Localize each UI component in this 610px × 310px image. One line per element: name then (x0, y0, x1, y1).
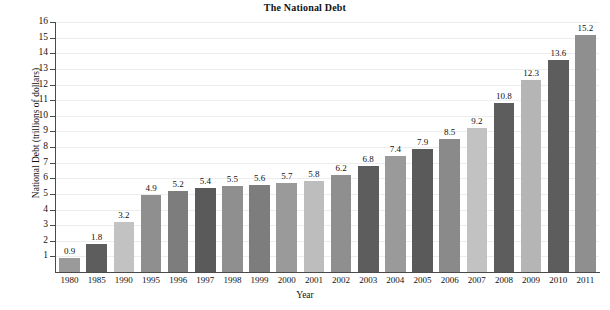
y-tick-label: 12 (0, 80, 48, 90)
x-tick-label: 2003 (355, 276, 382, 285)
bar[interactable] (548, 60, 569, 273)
bar-slot[interactable]: 5.8 (300, 22, 327, 272)
x-tick-label: 2000 (273, 276, 300, 285)
x-tick-label: 2010 (545, 276, 572, 285)
bar-slot[interactable]: 3.2 (110, 22, 137, 272)
y-tick-label: 2 (0, 236, 48, 246)
bar[interactable] (575, 35, 596, 273)
bar-slot[interactable]: 15.2 (572, 22, 599, 272)
bar-value-label: 15.2 (558, 24, 610, 33)
y-tick-mark (50, 100, 55, 101)
x-tick-label: 2001 (300, 276, 327, 285)
bar[interactable] (467, 128, 488, 272)
y-tick-label: 15 (0, 33, 48, 43)
x-tick-label: 2008 (490, 276, 517, 285)
bar[interactable] (168, 191, 189, 272)
bar-slot[interactable]: 7.9 (409, 22, 436, 272)
x-tick-label: 2005 (409, 276, 436, 285)
y-tick-mark (50, 85, 55, 86)
y-tick-label: 11 (0, 95, 48, 105)
y-tick-label: 6 (0, 173, 48, 183)
x-tick-label: 1995 (137, 276, 164, 285)
bar-slot[interactable]: 10.8 (490, 22, 517, 272)
bar[interactable] (141, 195, 162, 272)
y-tick-mark (50, 194, 55, 195)
y-tick-label: 13 (0, 64, 48, 74)
x-tick-label: 1996 (165, 276, 192, 285)
x-axis-line (55, 272, 600, 273)
bar-slot[interactable]: 7.4 (382, 22, 409, 272)
y-tick-mark (50, 225, 55, 226)
y-tick-mark (50, 178, 55, 179)
x-tick-label: 1990 (110, 276, 137, 285)
bar[interactable] (276, 183, 297, 272)
x-axis-title: Year (0, 290, 610, 300)
x-tick-label: 2009 (518, 276, 545, 285)
x-tick-label: 1999 (246, 276, 273, 285)
y-tick-mark (50, 241, 55, 242)
bar[interactable] (412, 149, 433, 272)
y-tick-mark (50, 131, 55, 132)
bar-slot[interactable]: 5.7 (273, 22, 300, 272)
bar-slot[interactable]: 12.3 (518, 22, 545, 272)
bar[interactable] (222, 186, 243, 272)
bar-slot[interactable]: 5.4 (192, 22, 219, 272)
bar[interactable] (304, 181, 325, 272)
y-tick-label: 16 (0, 17, 48, 27)
x-tick-label: 2011 (572, 276, 599, 285)
bar[interactable] (385, 156, 406, 272)
bar[interactable] (358, 166, 379, 272)
y-tick-mark (50, 256, 55, 257)
y-tick-mark (50, 147, 55, 148)
x-tick-label: 2002 (328, 276, 355, 285)
x-tick-label: 1997 (192, 276, 219, 285)
y-tick-mark (50, 22, 55, 23)
y-tick-mark (50, 53, 55, 54)
bar-slot[interactable]: 8.5 (436, 22, 463, 272)
bar[interactable] (521, 80, 542, 272)
bar[interactable] (331, 175, 352, 272)
y-tick-label: 8 (0, 142, 48, 152)
bar[interactable] (195, 188, 216, 272)
y-tick-label: 3 (0, 220, 48, 230)
y-tick-label: 10 (0, 111, 48, 121)
y-tick-label: 14 (0, 48, 48, 58)
y-tick-label: 7 (0, 158, 48, 168)
bar[interactable] (494, 103, 515, 272)
bar-slot[interactable]: 5.6 (246, 22, 273, 272)
chart-title: The National Debt (0, 2, 610, 13)
bar-slot[interactable]: 1.8 (83, 22, 110, 272)
bar-slot[interactable]: 9.2 (463, 22, 490, 272)
x-tick-label: 2004 (382, 276, 409, 285)
y-tick-mark (50, 69, 55, 70)
x-tick-label: 2006 (436, 276, 463, 285)
bar[interactable] (249, 185, 270, 273)
bar[interactable] (439, 139, 460, 272)
bar[interactable] (114, 222, 135, 272)
bar-slot[interactable]: 4.9 (137, 22, 164, 272)
bar-slot[interactable]: 5.2 (165, 22, 192, 272)
x-tick-label: 1985 (83, 276, 110, 285)
bar-slot[interactable]: 5.5 (219, 22, 246, 272)
bar[interactable] (59, 258, 80, 272)
y-tick-label: 9 (0, 126, 48, 136)
y-tick-mark (50, 38, 55, 39)
y-tick-label: 1 (0, 251, 48, 261)
y-tick-mark (50, 116, 55, 117)
y-tick-mark (50, 210, 55, 211)
bar[interactable] (86, 244, 107, 272)
y-tick-label: 5 (0, 189, 48, 199)
y-tick-label: 4 (0, 205, 48, 215)
x-tick-label: 2007 (463, 276, 490, 285)
y-tick-mark (50, 163, 55, 164)
bar-slot[interactable]: 6.2 (328, 22, 355, 272)
x-tick-label: 1980 (56, 276, 83, 285)
x-tick-label: 1998 (219, 276, 246, 285)
bar-slot[interactable]: 13.6 (545, 22, 572, 272)
bar-chart: The National Debt National Debt (trillio… (0, 0, 610, 310)
